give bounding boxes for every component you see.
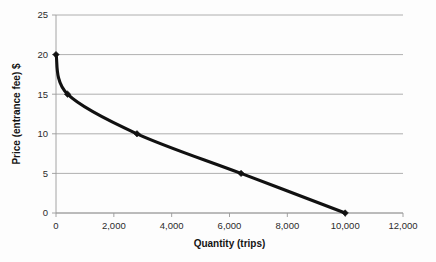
x-tick-label-6000: 6,000: [218, 220, 242, 231]
y-tick-label-25: 25: [37, 9, 48, 20]
y-tick-labels: 0510152025: [37, 9, 48, 218]
axes-group: [52, 15, 403, 217]
demand-curve-chart: 051015202502,0004,0006,0008,00010,00012,…: [0, 0, 436, 262]
x-axis-title: Quantity (trips): [194, 238, 266, 249]
x-tick-label-4000: 4,000: [160, 220, 184, 231]
x-tick-label-12000: 12,000: [388, 220, 417, 231]
x-tick-label-0: 0: [53, 220, 58, 231]
y-tick-label-20: 20: [37, 49, 48, 60]
x-tick-label-10000: 10,000: [331, 220, 360, 231]
y-axis-title: Price (entrance fee) $: [11, 63, 22, 165]
chart-container: 051015202502,0004,0006,0008,00010,00012,…: [0, 0, 436, 262]
gridlines-group: [56, 15, 403, 213]
y-tick-label-15: 15: [37, 89, 48, 100]
x-tick-label-2000: 2,000: [102, 220, 126, 231]
y-tick-label-10: 10: [37, 128, 48, 139]
x-tick-label-8000: 8,000: [275, 220, 299, 231]
data-point-0: [53, 51, 59, 57]
x-tick-labels: 02,0004,0006,0008,00010,00012,000: [53, 220, 417, 231]
y-tick-label-0: 0: [43, 207, 48, 218]
y-tick-label-5: 5: [43, 168, 48, 179]
